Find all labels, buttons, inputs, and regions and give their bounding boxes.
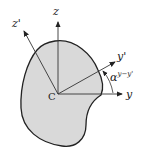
angle-label: αy−y' (110, 70, 133, 84)
y-axis-label: y (125, 88, 133, 101)
centroid-label: C (48, 91, 56, 102)
cross-section-shape (21, 41, 103, 147)
z-prime-axis-label: z' (11, 17, 21, 30)
y-prime-axis-label: y' (116, 50, 126, 63)
cross-section-diagram: z y y' z' C αy−y' (0, 0, 148, 155)
angle-superscript: y−y' (116, 70, 133, 78)
z-axis-label: z (52, 5, 59, 18)
